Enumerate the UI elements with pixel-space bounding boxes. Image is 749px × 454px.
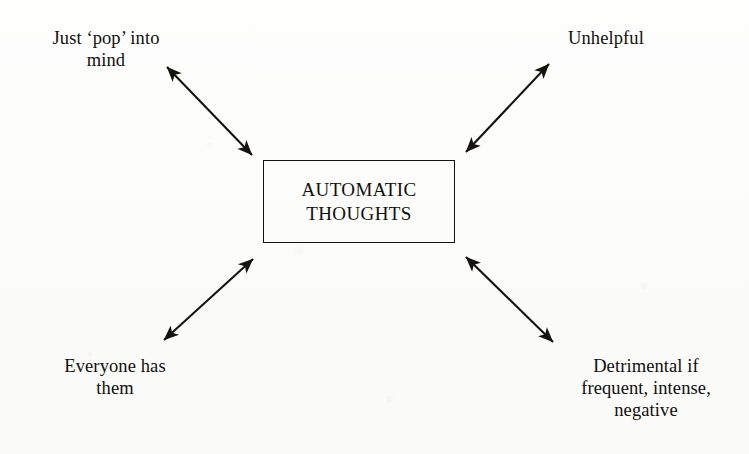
node-label-unhelpful: Unhelpful xyxy=(520,27,692,49)
node-label-pop-into-mind: Just ‘pop’ into mind xyxy=(20,27,192,71)
connector-bottom-right xyxy=(466,257,553,342)
connector-top-right xyxy=(466,64,549,152)
node-label-detrimental: Detrimental if frequent, intense, negati… xyxy=(551,355,741,421)
connector-top-left xyxy=(167,67,252,155)
diagram-canvas: Just ‘pop’ into mind Unhelpful Everyone … xyxy=(0,0,749,454)
central-concept-label: AUTOMATIC THOUGHTS xyxy=(301,178,416,226)
central-concept-box: AUTOMATIC THOUGHTS xyxy=(263,160,455,243)
connector-bottom-left xyxy=(164,259,253,340)
node-label-everyone-has-them: Everyone has them xyxy=(29,355,201,399)
